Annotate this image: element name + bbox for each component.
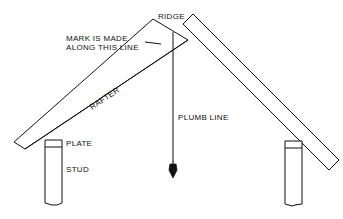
right-stud <box>285 141 302 206</box>
ridge-label: RIDGE <box>158 12 185 21</box>
plumb-line-label: PLUMB LINE <box>178 113 229 122</box>
stud-label: STUD <box>66 165 89 174</box>
right-rafter <box>183 14 339 170</box>
rafter-diagram: RIDGE MARK IS MADE ALONG THIS LINE RAFTE… <box>0 0 343 219</box>
plate-label: PLATE <box>66 139 92 148</box>
mark-label-line1: MARK IS MADE <box>66 34 128 43</box>
plumb-bob-icon <box>169 164 177 178</box>
left-stud <box>45 140 62 205</box>
plumb-line <box>169 32 177 178</box>
mark-label-line2: ALONG THIS LINE <box>66 43 139 52</box>
